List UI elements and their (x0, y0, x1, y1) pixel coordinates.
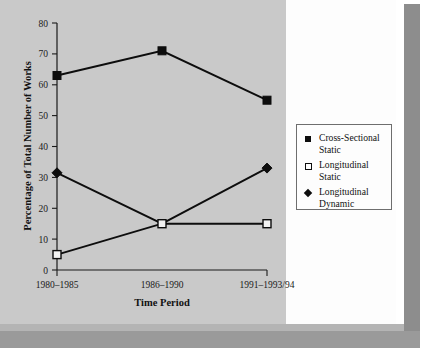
legend-label-line1: Cross-Sectional (319, 132, 380, 143)
legend-label-line1: Longitudinal (319, 159, 369, 170)
data-point-marker (262, 163, 272, 173)
data-point-marker (263, 96, 271, 104)
legend-item-longitudinal-dynamic: Longitudinal Dynamic (304, 186, 385, 209)
legend-label-line2: Static (319, 171, 341, 182)
y-tick-label: 70 (39, 49, 49, 59)
x-tick-label: 1986–1990 (141, 280, 184, 290)
chart-legend: Cross-Sectional Static Longitudinal Stat… (296, 124, 392, 210)
legend-item-label: Longitudinal Dynamic (319, 186, 369, 209)
legend-item-label: Cross-Sectional Static (319, 132, 380, 155)
data-point-marker (53, 72, 61, 80)
figure-page: 80 70 60 50 40 30 20 10 0 1980–1985 1986… (0, 0, 428, 348)
y-tick-label: 60 (39, 80, 49, 90)
filled-square-icon (304, 132, 316, 145)
legend-item-label: Longitudinal Static (319, 159, 369, 182)
data-point-marker (53, 251, 61, 259)
data-point-marker (158, 220, 166, 228)
y-tick-label: 40 (39, 142, 49, 152)
y-tick-label: 80 (39, 19, 49, 29)
y-axis-title: Percentage of Total Number of Works (22, 61, 33, 230)
scan-edge-bottom (0, 331, 420, 348)
filled-diamond-icon (304, 186, 316, 199)
data-point-marker (158, 47, 166, 55)
legend-label-line1: Longitudinal (319, 186, 369, 197)
legend-label-line2: Static (319, 144, 341, 155)
y-tick-label: 20 (39, 204, 49, 214)
x-tick-label: 1991–1993/94 (240, 280, 295, 290)
y-axis-ticks (52, 23, 57, 270)
y-tick-label: 10 (39, 235, 49, 245)
data-point-marker (263, 220, 271, 228)
legend-item-longitudinal-static: Longitudinal Static (304, 159, 385, 182)
y-tick-label: 30 (39, 173, 49, 183)
series-line-longitudinal-dynamic (57, 168, 267, 224)
data-point-marker (52, 168, 62, 178)
x-tick-label: 1980–1985 (36, 280, 79, 290)
legend-item-cross-sectional-static: Cross-Sectional Static (304, 132, 385, 155)
x-axis-ticks (57, 270, 267, 276)
y-tick-label: 50 (39, 111, 49, 121)
open-square-icon (304, 159, 316, 172)
series-line-cross-sectional-static (57, 51, 267, 100)
y-tick-label: 0 (43, 266, 48, 276)
x-axis-title: Time Period (134, 297, 190, 308)
legend-label-line2: Dynamic (319, 198, 354, 209)
scan-edge-right (404, 4, 420, 340)
